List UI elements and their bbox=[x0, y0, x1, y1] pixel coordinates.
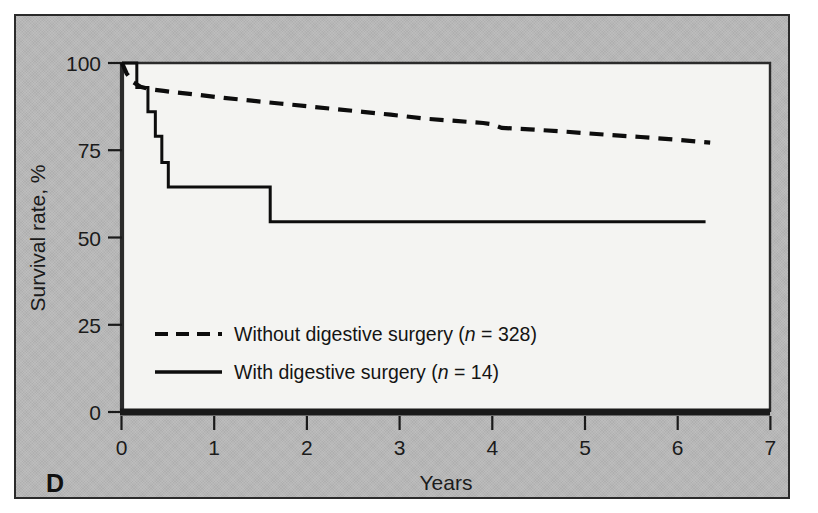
x-tick-label-0: 0 bbox=[116, 436, 128, 459]
y-tick-label-50: 50 bbox=[78, 227, 101, 250]
y-tick-label-100: 100 bbox=[66, 52, 101, 75]
legend-label-without-surgery: Without digestive surgery (n = 328) bbox=[234, 323, 537, 345]
x-axis-tick-labels: 0 1 2 3 4 5 6 7 bbox=[116, 436, 777, 459]
figure-root: 100 75 50 25 0 Survival rate, % 0 1 2 3 … bbox=[0, 0, 818, 513]
panel-label: D bbox=[46, 469, 64, 497]
x-axis-ticks bbox=[122, 416, 771, 430]
survival-chart: 100 75 50 25 0 Survival rate, % 0 1 2 3 … bbox=[0, 0, 818, 513]
x-tick-label-4: 4 bbox=[486, 436, 498, 459]
x-axis-title: Years bbox=[420, 471, 473, 494]
x-tick-label-7: 7 bbox=[765, 436, 777, 459]
x-tick-label-3: 3 bbox=[394, 436, 406, 459]
y-axis-tick-labels: 100 75 50 25 0 bbox=[66, 52, 101, 424]
y-axis-title: Survival rate, % bbox=[26, 164, 49, 311]
x-tick-label-2: 2 bbox=[301, 436, 313, 459]
y-tick-label-25: 25 bbox=[78, 314, 101, 337]
plot-area bbox=[122, 63, 770, 412]
y-tick-label-75: 75 bbox=[78, 139, 101, 162]
x-tick-label-1: 1 bbox=[208, 436, 220, 459]
x-tick-label-6: 6 bbox=[672, 436, 684, 459]
y-tick-label-0: 0 bbox=[89, 401, 101, 424]
x-tick-label-5: 5 bbox=[579, 436, 591, 459]
legend-label-with-surgery: With digestive surgery (n = 14) bbox=[234, 361, 499, 383]
